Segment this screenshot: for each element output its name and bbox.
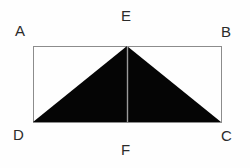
vertex-label-f: F	[121, 142, 130, 157]
vertex-label-a: A	[15, 23, 25, 38]
vertex-label-b: B	[221, 24, 231, 39]
diagram-canvas: A B E D C F	[0, 0, 250, 168]
vertex-label-e: E	[121, 8, 131, 23]
vertex-label-c: C	[221, 128, 232, 143]
vertex-label-d: D	[13, 127, 24, 142]
